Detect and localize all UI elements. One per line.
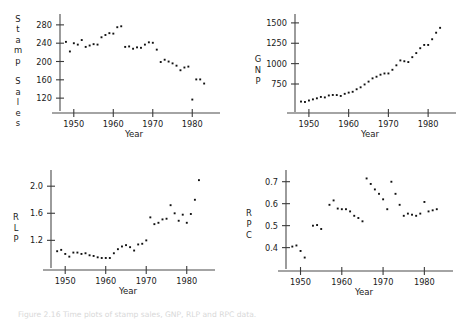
gnp-data-point (439, 27, 441, 29)
gnp-data-point (380, 74, 382, 76)
rlp-data-point (178, 220, 180, 222)
gnp-data-point (372, 77, 374, 79)
gnp-data-point (407, 61, 409, 63)
gnp-data-point (316, 97, 318, 99)
rlp-data-point (93, 255, 95, 257)
stamp-sales-data-point (183, 67, 185, 69)
stamp-sales-data-point (199, 78, 201, 80)
rpc-data-point (291, 246, 293, 248)
rlp-data-point (162, 218, 164, 220)
chart-panel-stamp-sales: 1201602002402801950196019701980YearStamp… (0, 0, 235, 160)
gnp-data-point (423, 44, 425, 46)
gnp-data-point (391, 69, 393, 71)
rpc-data-point (436, 208, 438, 210)
rlp-data-point (133, 250, 135, 252)
rlp-data-point (89, 254, 91, 256)
gnp-data-point (395, 64, 397, 66)
rpc-x-axis-title: Year (354, 287, 374, 297)
rlp-data-point (149, 216, 151, 218)
rlp-data-point (153, 223, 155, 225)
rlp-data-point (64, 253, 66, 255)
rlp-x-tick-label: 1960 (95, 276, 116, 286)
gnp-data-point (368, 81, 370, 83)
stamp-sales-x-tick-label: 1960 (103, 119, 124, 129)
rlp-y-axis-title-char: R (13, 212, 19, 222)
stamp-sales-data-point (136, 46, 138, 48)
stamp-sales-data-point (187, 66, 189, 68)
rlp-data-point (186, 222, 188, 224)
stamp-sales-data-point (108, 32, 110, 34)
stamp-sales-data-point (104, 34, 106, 36)
rlp-data-point (76, 252, 78, 254)
gnp-data-point (364, 84, 366, 86)
rlp-data-point (121, 246, 123, 248)
rlp-y-axis-title-char: P (13, 234, 18, 244)
gnp-data-point (312, 98, 314, 100)
stamp-sales-data-point (81, 39, 83, 41)
rlp-data-point (157, 222, 159, 224)
gnp-data-point (340, 95, 342, 97)
gnp-y-tick-label: 750 (271, 79, 287, 89)
gnp-data-point (356, 88, 358, 90)
rpc-y-axis-title-char: C (246, 230, 252, 240)
gnp-data-point (360, 86, 362, 88)
rpc-data-point (362, 220, 364, 222)
stamp-sales-data-point (120, 25, 122, 27)
rlp-data-point (101, 257, 103, 259)
rlp-x-tick-label: 1980 (176, 276, 197, 286)
stamp-sales-data-point (160, 61, 162, 63)
stamp-sales-data-point (97, 44, 99, 46)
rlp-plot: 1.21.62.01950196019701980YearRLP (0, 158, 235, 310)
rpc-x-tick-label: 1980 (414, 277, 435, 287)
rlp-data-point (113, 252, 115, 254)
gnp-data-point (384, 73, 386, 75)
stamp-sales-data-point (152, 42, 154, 44)
stamp-sales-plot: 1201602002402801950196019701980YearStamp… (0, 0, 235, 160)
gnp-data-point (332, 94, 334, 96)
gnp-x-tick-label: 1950 (298, 119, 319, 129)
stamp-sales-data-point (168, 61, 170, 63)
rpc-data-point (349, 210, 351, 212)
rpc-data-point (415, 215, 417, 217)
rpc-y-tick-label: 0.6 (265, 199, 278, 209)
rlp-data-point (166, 218, 168, 220)
rlp-data-point (174, 212, 176, 214)
rpc-data-point (295, 245, 297, 247)
rlp-data-point (56, 250, 58, 252)
stamp-sales-y-axis-title-char: p (15, 56, 20, 66)
rlp-data-point (190, 213, 192, 215)
rlp-data-point (72, 252, 74, 254)
gnp-data-point (344, 93, 346, 95)
gnp-x-tick-label: 1980 (418, 119, 439, 129)
rpc-data-point (428, 210, 430, 212)
stamp-sales-x-axis-title: Year (124, 129, 144, 139)
gnp-data-point (431, 38, 433, 40)
stamp-sales-data-point (124, 46, 126, 48)
rlp-data-point (109, 257, 111, 259)
rpc-data-point (329, 204, 331, 206)
gnp-plot: 7501000125015001950196019701980YearGNP (236, 0, 471, 160)
stamp-sales-data-point (132, 48, 134, 50)
rlp-data-point (97, 256, 99, 258)
gnp-data-point (336, 94, 338, 96)
rpc-data-point (320, 228, 322, 230)
rpc-y-tick-label: 0.5 (265, 221, 278, 231)
stamp-sales-data-point (148, 41, 150, 43)
rlp-data-point (141, 243, 143, 245)
rlp-data-point (137, 244, 139, 246)
gnp-data-point (348, 92, 350, 94)
rpc-data-point (403, 215, 405, 217)
rlp-y-tick-label: 1.6 (30, 208, 43, 218)
rlp-data-point (198, 179, 200, 181)
gnp-y-tick-label: 1250 (266, 38, 287, 48)
stamp-sales-y-axis-title-char: a (15, 87, 20, 97)
stamp-sales-y-tick-label: 280 (36, 20, 52, 30)
gnp-data-point (304, 101, 306, 103)
rpc-y-axis-title-char: P (246, 219, 251, 229)
rpc-data-point (382, 198, 384, 200)
rlp-x-axis-title: Year (118, 286, 138, 296)
rpc-plot: 0.40.50.60.71950196019701980YearRPC (236, 158, 471, 310)
rlp-y-tick-label: 2.0 (30, 181, 43, 191)
rpc-data-point (399, 204, 401, 206)
rpc-data-point (407, 213, 409, 215)
